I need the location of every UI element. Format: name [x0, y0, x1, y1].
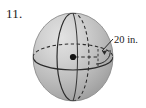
sphere-diagram-svg [0, 0, 146, 108]
geometry-figure-sphere: 11. [0, 0, 146, 108]
dimension-label: 20 in. [114, 35, 138, 46]
sphere-center-dot [70, 54, 76, 60]
